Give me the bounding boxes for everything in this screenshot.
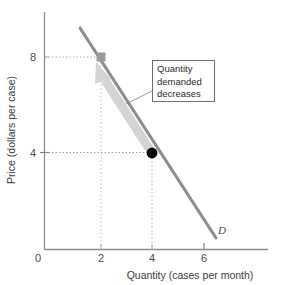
demand-curve-label: D bbox=[217, 224, 226, 236]
x-tick-label-4: 4 bbox=[149, 252, 155, 264]
y-tick-label-4: 4 bbox=[30, 147, 36, 159]
x-tick-label-0: 0 bbox=[35, 252, 41, 264]
movement-arrow-shaft bbox=[105, 80, 150, 150]
y-tick-label-8: 8 bbox=[30, 51, 36, 63]
annotation-line-1: Quantity bbox=[157, 63, 193, 74]
annotation-leader-line bbox=[126, 91, 152, 104]
data-point-marker-square bbox=[97, 53, 106, 62]
annotation-line-2: demanded bbox=[157, 76, 202, 87]
annotation-line-3: decreases bbox=[157, 88, 201, 99]
x-tick-label-2: 2 bbox=[98, 252, 104, 264]
demand-curve-figure: Quantity demanded decreases D 8 4 0 2 4 … bbox=[0, 0, 281, 285]
x-axis-title: Quantity (cases per month) bbox=[127, 269, 254, 281]
y-axis-title: Price (dollars per case) bbox=[5, 76, 17, 184]
movement-arrow bbox=[95, 62, 150, 150]
chart-canvas: Quantity demanded decreases D 8 4 0 2 4 … bbox=[0, 0, 281, 285]
data-point-marker-circle bbox=[147, 148, 158, 159]
x-tick-label-6: 6 bbox=[201, 252, 207, 264]
